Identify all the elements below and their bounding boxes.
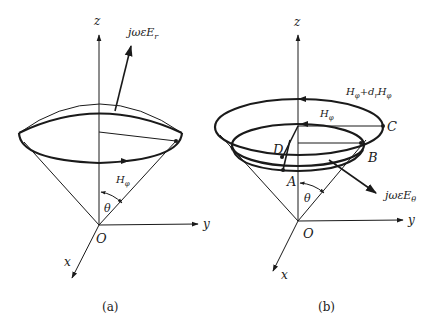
rim-direction-arrow-a bbox=[121, 158, 129, 164]
point-d-label: D bbox=[272, 142, 284, 157]
point-b-dot bbox=[359, 141, 363, 145]
point-a-label: A bbox=[286, 174, 296, 189]
point-b-label: B bbox=[367, 150, 378, 165]
x-axis-label-a: x bbox=[64, 255, 71, 269]
x-axis-label-b: x bbox=[281, 268, 288, 282]
figure-canvas: z y x O jωεEr θ Hφ (a) bbox=[0, 0, 434, 332]
x-axis-a bbox=[72, 225, 99, 278]
outer-ring-arrow-b bbox=[298, 96, 306, 102]
y-axis-label-a: y bbox=[202, 217, 210, 231]
theta-label-b: θ bbox=[304, 192, 311, 205]
origin-label-b: O bbox=[303, 226, 314, 241]
h-field-label-a: Hφ bbox=[115, 174, 130, 188]
cap-rim-upper-a bbox=[19, 114, 182, 134]
y-axis-a bbox=[99, 224, 198, 225]
e-field-label-a: jωεEr bbox=[125, 26, 159, 41]
theta-label-a: θ bbox=[104, 202, 111, 215]
inner-field-label-b: Hφ bbox=[319, 108, 334, 122]
caption-a: (a) bbox=[102, 300, 119, 314]
radius-line-a bbox=[99, 132, 176, 141]
x-axis-b bbox=[273, 221, 298, 271]
y-axis-b bbox=[298, 220, 403, 221]
origin-label-a: O bbox=[96, 231, 107, 246]
e-field-label-b: jωεEθ bbox=[382, 189, 416, 204]
cone-side-left-a bbox=[24, 142, 99, 225]
caption-b: (b) bbox=[318, 300, 335, 314]
point-c-dot bbox=[381, 124, 385, 128]
panel-b: z y x O C B D A bbox=[215, 15, 416, 314]
cap-back-arc-a bbox=[19, 104, 182, 133]
point-c-label: C bbox=[387, 119, 397, 134]
rim-point-a bbox=[174, 139, 178, 143]
panel-a: z y x O jωεEr θ Hφ (a) bbox=[19, 14, 210, 314]
outer-field-label-b: Hφ+drHφ bbox=[345, 86, 392, 100]
y-axis-label-b: y bbox=[407, 213, 415, 227]
point-a-dot bbox=[281, 168, 285, 172]
z-axis-label-a: z bbox=[93, 14, 101, 28]
outer-ring-b bbox=[215, 99, 383, 155]
e-field-arrow-a bbox=[115, 46, 131, 111]
cap-rim-lower-a bbox=[19, 133, 182, 163]
z-axis-label-b: z bbox=[293, 15, 301, 29]
